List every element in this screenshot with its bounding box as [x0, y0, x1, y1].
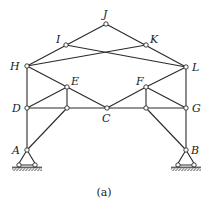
pin-supports: [12, 150, 201, 171]
label-L: L: [191, 61, 199, 74]
joint-J: [104, 22, 108, 26]
joint-L: [184, 65, 188, 69]
joint-G: [184, 106, 188, 110]
label-F: F: [135, 75, 144, 88]
label-A: A: [11, 144, 20, 157]
figure-caption: (a): [96, 186, 111, 199]
truss-figure: JIKHLEFDCGAB (a): [0, 0, 209, 204]
label-I: I: [55, 33, 61, 46]
ground-hatch-icon: [12, 168, 42, 172]
joint-I: [64, 43, 68, 47]
truss-diagram: JIKHLEFDCGAB (a): [0, 0, 209, 204]
member-K-H: [27, 45, 146, 66]
joint-labels: JIKHLEFDCGAB: [9, 8, 201, 157]
joint-D: [25, 106, 29, 110]
member-F-C: [107, 87, 146, 108]
member-G-F: [146, 87, 186, 108]
member-D-E: [27, 87, 67, 108]
joint-F: [144, 85, 148, 89]
label-H: H: [9, 60, 20, 73]
joint-E: [65, 85, 69, 89]
label-C: C: [102, 112, 111, 125]
joint-P1: [65, 106, 69, 110]
label-B: B: [190, 144, 199, 157]
member-E-C: [67, 87, 107, 108]
member-L-F: [146, 67, 186, 87]
label-E: E: [70, 75, 79, 88]
label-J: J: [101, 8, 108, 21]
joint-K: [144, 43, 148, 47]
joint-H: [25, 64, 29, 68]
joint-B: [184, 148, 188, 152]
label-D: D: [11, 102, 21, 115]
label-K: K: [149, 33, 159, 46]
member-H-E: [27, 66, 67, 87]
member-P1-A: [27, 108, 67, 150]
joint-P2: [144, 106, 148, 110]
truss-members: [27, 24, 186, 150]
joint-C: [105, 106, 109, 110]
member-P2-B: [146, 108, 186, 150]
joint-A: [25, 148, 29, 152]
label-G: G: [192, 102, 201, 115]
truss-joints: [25, 22, 188, 152]
ground-hatch-icon: [171, 168, 201, 172]
